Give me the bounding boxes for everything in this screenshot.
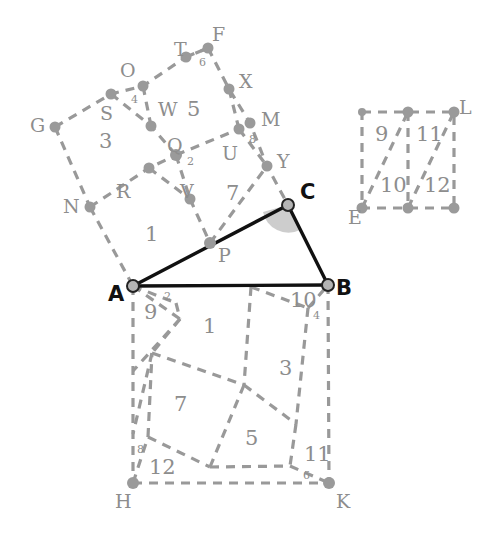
lower-cut-12-inner bbox=[148, 353, 152, 437]
triangle-side-cb bbox=[288, 205, 328, 285]
piece-label-p7-upper: 7 bbox=[226, 183, 239, 204]
lower-cut-3-right bbox=[296, 308, 308, 424]
vertex-label-k: K bbox=[336, 492, 350, 511]
cut-n-r-q bbox=[90, 155, 176, 207]
cut-o-w bbox=[143, 86, 151, 126]
node-u bbox=[234, 124, 245, 135]
vertex-label-w: W bbox=[158, 100, 178, 119]
piece-label-p11-lower: 11 bbox=[304, 444, 331, 465]
piece-label-p12-lower: 12 bbox=[149, 457, 176, 478]
vertex-label-s: S bbox=[100, 104, 113, 123]
node-r bbox=[144, 163, 155, 174]
vertex-label-t: T bbox=[174, 40, 187, 59]
node-right-bot-mid bbox=[403, 203, 414, 214]
lower-cut-5-7-divider bbox=[210, 385, 244, 467]
piece-label-p11-right: 11 bbox=[416, 124, 443, 145]
vertex-label-l: L bbox=[459, 98, 472, 117]
piece-label-p12-right: 12 bbox=[424, 175, 451, 196]
triangle-side-ab bbox=[133, 285, 328, 286]
upper-dissection-group bbox=[55, 48, 288, 286]
piece-label-p8-lower: 8 bbox=[137, 444, 144, 455]
piece-label-p7-lower: 7 bbox=[174, 394, 187, 415]
piece-label-p10-lower: 10 bbox=[290, 290, 317, 311]
node-g bbox=[50, 122, 61, 133]
node-m bbox=[245, 118, 256, 129]
vertex-label-e: E bbox=[348, 208, 362, 227]
node-a bbox=[127, 280, 139, 292]
node-b bbox=[322, 279, 334, 291]
lower-cut-1-3-divider bbox=[244, 287, 251, 385]
lower-cut-9-lower bbox=[133, 319, 180, 371]
lower-cut-12-boundary bbox=[133, 353, 152, 434]
vertex-label-x: X bbox=[239, 72, 253, 91]
piece-label-p3-upper: 3 bbox=[99, 131, 112, 152]
piece-label-p2-upper: 2 bbox=[187, 156, 194, 167]
piece-label-p1-lower: 1 bbox=[203, 316, 216, 337]
vertex-label-v: V bbox=[180, 182, 194, 201]
lower-cut-7-boundary bbox=[152, 353, 244, 385]
node-n bbox=[85, 202, 96, 213]
vertex-label-g: G bbox=[30, 116, 45, 135]
vertex-label-q: Q bbox=[167, 136, 183, 155]
piece-label-p4-upper: 4 bbox=[131, 94, 138, 105]
piece-label-p10-right: 10 bbox=[380, 175, 407, 196]
node-w bbox=[146, 121, 157, 132]
vertex-label-r: R bbox=[116, 182, 130, 201]
lower-cut-3-5-divider bbox=[244, 385, 296, 424]
node-x bbox=[224, 84, 235, 95]
vertex-label-m: M bbox=[261, 110, 280, 129]
node-right-top-mid bbox=[403, 107, 414, 118]
node-right-top-left bbox=[358, 108, 366, 116]
diagram-canvas: GSOTFXWMQUYNRVPCABHKEL 35174628137591012… bbox=[0, 0, 494, 538]
node-c bbox=[282, 199, 294, 211]
piece-label-p8-upper: 8 bbox=[249, 134, 256, 145]
vertex-label-n: N bbox=[63, 197, 80, 216]
piece-label-p9-right: 9 bbox=[375, 124, 388, 145]
node-o bbox=[138, 81, 149, 92]
vertex-label-c: C bbox=[300, 182, 315, 203]
piece-label-p3-lower: 3 bbox=[279, 358, 292, 379]
cut-v-p bbox=[190, 199, 210, 243]
lower-cut-5-bottom bbox=[210, 466, 290, 467]
node-p bbox=[204, 237, 216, 249]
vertex-label-a: A bbox=[108, 284, 124, 305]
vertex-label-u: U bbox=[222, 144, 238, 163]
vertex-label-y: Y bbox=[277, 152, 290, 171]
upper-outline-n-a bbox=[90, 207, 133, 286]
node-k bbox=[323, 477, 335, 489]
node-right-bot-right bbox=[449, 203, 460, 214]
node-s bbox=[106, 89, 117, 100]
piece-label-p1-upper: 1 bbox=[145, 224, 158, 245]
vertex-label-f: F bbox=[212, 25, 225, 44]
piece-label-p4-lower: 4 bbox=[313, 310, 320, 321]
piece-label-p5-upper: 5 bbox=[187, 99, 200, 120]
node-l bbox=[449, 107, 460, 118]
vertex-label-o: O bbox=[120, 61, 136, 80]
vertex-label-h: H bbox=[115, 492, 132, 511]
piece-label-p2-lower: 2 bbox=[164, 291, 171, 302]
piece-label-p5-lower: 5 bbox=[245, 428, 258, 449]
piece-label-p6-upper: 6 bbox=[199, 57, 206, 68]
vertex-label-b: B bbox=[336, 278, 352, 299]
lower-cut-11-boundary bbox=[290, 424, 296, 466]
vertex-label-p: P bbox=[218, 246, 231, 265]
piece-label-p9-lower: 9 bbox=[144, 302, 157, 323]
node-y bbox=[262, 161, 273, 172]
lower-square-group bbox=[133, 285, 329, 483]
piece-label-p6-lower: 6 bbox=[303, 470, 310, 481]
node-h bbox=[127, 477, 139, 489]
